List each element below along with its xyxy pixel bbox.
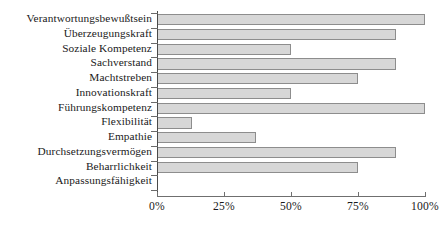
bar	[157, 29, 396, 40]
category-label: Durchsetzungsvermögen	[2, 144, 152, 159]
category-label: Führungskompetenz	[2, 100, 152, 115]
bar-track	[157, 147, 425, 158]
category-label: Empathie	[2, 129, 152, 144]
y-axis-tick	[151, 175, 158, 176]
bar-track	[157, 117, 425, 128]
bar-track	[157, 132, 425, 143]
bar-track	[157, 29, 425, 40]
x-axis-tick	[157, 192, 158, 197]
y-axis-tick	[151, 87, 158, 88]
bar	[157, 88, 291, 99]
category-label: Anpassungsfähigkeit	[2, 173, 152, 188]
bar	[157, 162, 358, 173]
bar-rows-container: VerantwortungsbewußtseinÜberzeugungskraf…	[0, 13, 440, 190]
y-axis-tick	[151, 190, 158, 191]
y-axis-tick	[151, 43, 158, 44]
bar-track	[157, 73, 425, 84]
bar	[157, 58, 396, 69]
bar-track	[157, 88, 425, 99]
y-axis-line	[157, 11, 158, 197]
y-axis-tick	[151, 102, 158, 103]
bar-chart-figure: VerantwortungsbewußtseinÜberzeugungskraf…	[0, 0, 440, 231]
bar-track	[157, 176, 425, 187]
y-axis-tick	[151, 13, 158, 14]
x-axis-tick-label: 50%	[261, 200, 321, 214]
category-label: Verantwortungsbewußtsein	[2, 11, 152, 26]
category-label: Innovationskraft	[2, 85, 152, 100]
y-axis-tick	[151, 72, 158, 73]
bar	[157, 132, 256, 143]
x-axis-tick-label: 100%	[395, 200, 440, 214]
y-axis-tick	[151, 28, 158, 29]
category-label: Flexibilität	[2, 114, 152, 129]
x-axis-tick	[425, 192, 426, 197]
bar-track	[157, 44, 425, 55]
bar	[157, 117, 192, 128]
x-axis-tick-label: 0%	[127, 200, 187, 214]
bar-track	[157, 162, 425, 173]
x-axis-tick	[224, 192, 225, 197]
bar	[157, 14, 425, 25]
y-axis-tick	[151, 131, 158, 132]
x-axis-tick-label: 75%	[328, 200, 388, 214]
x-axis-tick-label: 25%	[194, 200, 254, 214]
y-axis-tick	[151, 57, 158, 58]
x-axis-tick	[358, 192, 359, 197]
category-label: Überzeugungskraft	[2, 26, 152, 41]
category-label: Soziale Kompetenz	[2, 41, 152, 56]
category-label: Beharrlichkeit	[2, 159, 152, 174]
bar-track	[157, 103, 425, 114]
bar	[157, 147, 396, 158]
bar	[157, 44, 291, 55]
y-axis-tick	[151, 161, 158, 162]
category-label: Machtstreben	[2, 70, 152, 85]
x-axis-tick	[291, 192, 292, 197]
y-axis-tick	[151, 146, 158, 147]
bar-track	[157, 14, 425, 25]
category-label: Sachverstand	[2, 55, 152, 70]
y-axis-tick	[151, 116, 158, 117]
bar	[157, 73, 358, 84]
bar	[157, 103, 425, 114]
bar-row: Anpassungsfähigkeit	[0, 175, 440, 190]
bar-track	[157, 58, 425, 69]
